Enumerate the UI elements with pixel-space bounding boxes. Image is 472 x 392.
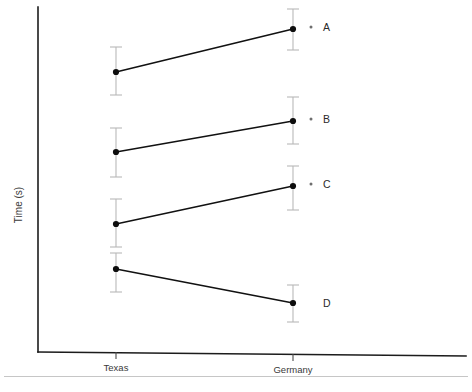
series-a-group: A <box>110 9 330 95</box>
point-d-germany <box>290 300 296 306</box>
footer-divider <box>4 376 468 377</box>
x-axis-spine <box>38 352 466 356</box>
figure-page: Time (s) Texas Germany A <box>0 0 472 392</box>
point-d-texas <box>113 266 119 272</box>
series-label-b: B <box>323 113 330 125</box>
series-label-a: A <box>323 21 330 33</box>
series-c-line <box>116 186 293 224</box>
series-d-line <box>116 269 293 303</box>
point-c-texas <box>113 221 119 227</box>
series-label-c: C <box>323 178 331 190</box>
legend-dot-b <box>310 118 313 121</box>
series-d-group: D <box>110 253 331 322</box>
y-axis-title: Time (s) <box>13 187 24 223</box>
series-c-group: C <box>110 166 331 247</box>
series-label-d: D <box>323 297 331 309</box>
point-b-texas <box>113 149 119 155</box>
series-b-group: B <box>110 97 330 177</box>
series-a-line <box>116 29 293 72</box>
point-c-germany <box>290 183 296 189</box>
axes-group <box>38 7 466 361</box>
x-tick-label-germany: Germany <box>273 364 312 375</box>
axis-labels-group: Time (s) Texas Germany <box>13 187 313 375</box>
point-a-texas <box>113 69 119 75</box>
point-a-germany <box>290 26 296 32</box>
legend-dot-a <box>310 26 313 29</box>
legend-dot-c <box>310 183 313 186</box>
line-chart-with-error-bars: Time (s) Texas Germany A <box>0 0 472 392</box>
x-tick-label-texas: Texas <box>104 362 129 373</box>
series-b-line <box>116 121 293 152</box>
point-b-germany <box>290 118 296 124</box>
